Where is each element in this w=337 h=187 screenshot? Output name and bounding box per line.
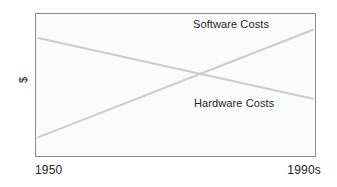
y-axis-label: $ xyxy=(17,69,29,91)
hardware-costs-label: Hardware Costs xyxy=(194,97,274,109)
plot-lines-svg xyxy=(36,14,315,156)
cost-crossover-chart: Software Costs Hardware Costs $ 1950 199… xyxy=(0,0,337,187)
software-costs-line xyxy=(38,30,313,138)
software-costs-label: Software Costs xyxy=(193,18,269,30)
x-axis-end-tick-label: 1990s xyxy=(287,163,321,177)
hardware-costs-line xyxy=(38,38,313,99)
x-axis-start-tick-label: 1950 xyxy=(35,163,63,177)
plot-area: Software Costs Hardware Costs xyxy=(35,13,316,157)
